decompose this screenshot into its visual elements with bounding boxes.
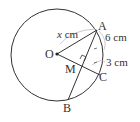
label-o: O [45,47,54,61]
arrow-ac [94,48,97,49]
label-ac-length: 6 cm [105,31,127,43]
label-c: C [99,70,107,84]
geometry-diagram: O A B C M x cm 6 cm 3 cm [0,0,140,122]
right-angle-mark [80,55,86,61]
label-mc-length: 3 cm [106,56,128,68]
segment-oc [57,54,100,75]
label-oa-length: x cm [56,28,79,40]
label-m: M [65,62,76,76]
label-b: B [63,101,71,115]
arrow-mc [94,62,97,63]
center-dot [55,52,58,55]
